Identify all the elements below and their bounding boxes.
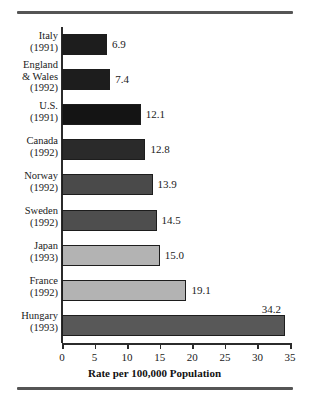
category-name: France (0, 275, 58, 287)
category-name: Norway (0, 170, 58, 182)
bar-row: 12.8 (62, 132, 290, 167)
bottom-rule (17, 387, 293, 390)
category-year: (1991) (0, 112, 58, 124)
bar-norway[interactable] (62, 174, 153, 195)
category-label-japan: Japan (1993) (0, 240, 58, 263)
category-year: (1992) (0, 82, 58, 94)
axis-tick-label: 25 (212, 351, 238, 363)
bar-england-wales[interactable] (62, 69, 110, 90)
category-label-france: France (1992) (0, 275, 58, 298)
bar-row: 6.9 (62, 27, 290, 62)
category-label-hungary: Hungary (1993) (0, 310, 58, 333)
bar-row: 7.4 (62, 62, 290, 97)
category-label-england-wales: England & Wales (1992) (0, 59, 58, 94)
bar-value-hungary: 34.2 (262, 300, 281, 319)
bar-france[interactable] (62, 280, 186, 301)
axis-tick-label: 35 (277, 351, 303, 363)
category-label-sweden: Sweden (1992) (0, 205, 58, 228)
bar-row: 13.9 (62, 167, 290, 202)
category-year: (1993) (0, 322, 58, 334)
bar-value-us: 12.1 (146, 105, 165, 124)
category-name: Hungary (0, 310, 58, 322)
bar-value-italy: 6.9 (112, 35, 126, 54)
bar-row: 19.1 (62, 273, 290, 308)
bar-value-france: 19.1 (191, 281, 210, 300)
bar-value-japan: 15.0 (165, 246, 184, 265)
axis-tick (225, 343, 227, 349)
value-axis: 0 5 10 15 20 25 30 35 (62, 343, 290, 345)
category-name-line2: & Wales (0, 71, 58, 83)
bar-value-sweden: 14.5 (162, 211, 181, 230)
bar-us[interactable] (62, 104, 141, 125)
category-year: (1993) (0, 252, 58, 264)
bar-value-england-wales: 7.4 (115, 70, 129, 89)
axis-tick-label: 5 (82, 351, 108, 363)
axis-tick-label: 15 (147, 351, 173, 363)
axis-tick (95, 343, 97, 349)
category-year: (1991) (0, 42, 58, 54)
category-label-us: U.S. (1991) (0, 100, 58, 123)
category-year: (1992) (0, 217, 58, 229)
category-name: Sweden (0, 205, 58, 217)
category-name: Japan (0, 240, 58, 252)
category-year: (1992) (0, 147, 58, 159)
axis-tick-label: 20 (179, 351, 205, 363)
bar-row: 15.0 (62, 238, 290, 273)
bar-japan[interactable] (62, 245, 160, 266)
bar-row: 14.5 (62, 203, 290, 238)
bar-row: 12.1 (62, 97, 290, 132)
category-year: (1992) (0, 182, 58, 194)
axis-tick (192, 343, 194, 349)
bar-canada[interactable] (62, 139, 145, 160)
category-name: England (0, 59, 58, 71)
bar-italy[interactable] (62, 34, 107, 55)
category-name: Canada (0, 135, 58, 147)
category-label-norway: Norway (1992) (0, 170, 58, 193)
axis-tick (257, 343, 259, 349)
bar-value-canada: 12.8 (150, 140, 169, 159)
bar-hungary[interactable] (62, 315, 285, 336)
category-year: (1992) (0, 287, 58, 299)
top-rule (17, 11, 293, 14)
plot-area: 6.9 7.4 12.1 12.8 13.9 14.5 (62, 27, 290, 343)
axis-tick-label: 10 (114, 351, 140, 363)
bar-sweden[interactable] (62, 210, 157, 231)
category-name: Italy (0, 30, 58, 42)
category-label-italy: Italy (1991) (0, 30, 58, 53)
axis-tick (290, 343, 292, 349)
axis-tick-label: 0 (49, 351, 75, 363)
axis-tick-label: 30 (244, 351, 270, 363)
axis-title: Rate per 100,000 Population (0, 367, 309, 379)
axis-tick (62, 343, 64, 349)
category-name: U.S. (0, 100, 58, 112)
bar-value-norway: 13.9 (158, 175, 177, 194)
axis-tick (160, 343, 162, 349)
axis-tick (127, 343, 129, 349)
category-label-canada: Canada (1992) (0, 135, 58, 158)
bar-row: 34.2 (62, 308, 290, 343)
chart-figure: 6.9 7.4 12.1 12.8 13.9 14.5 (0, 0, 309, 401)
